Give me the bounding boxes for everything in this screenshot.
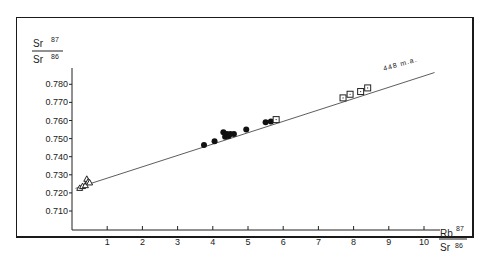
isochron-annotation: 448 m.a. [382, 56, 418, 72]
y-tick-label: 0.750 [45, 134, 68, 144]
x-tick-label: 1 [105, 237, 110, 247]
y-axis-label: Sr87Sr86 [32, 36, 63, 65]
x-tick-label: 3 [175, 237, 180, 247]
y-tick-label: 0.760 [45, 116, 68, 126]
isochron-chart: 0.7100.7200.7300.7400.7500.7600.7700.780… [0, 0, 492, 271]
x-tick-label: 4 [210, 237, 215, 247]
x-tick-label: 7 [316, 237, 321, 247]
svg-text:Sr: Sr [33, 38, 44, 49]
isochron-line [76, 73, 435, 189]
y-tick-label: 0.780 [45, 79, 68, 89]
data-point [231, 131, 237, 137]
y-tick-label: 0.730 [45, 170, 68, 180]
y-tick-label: 0.740 [45, 152, 68, 162]
svg-text:87: 87 [456, 225, 464, 232]
data-point [243, 127, 249, 133]
svg-text:Rb: Rb [440, 228, 453, 239]
y-tick-label: 0.770 [45, 97, 68, 107]
x-tick-label: 5 [245, 237, 250, 247]
y-tick-label: 0.720 [45, 188, 68, 198]
x-tick-label: 9 [386, 237, 391, 247]
x-tick-label: 10 [419, 237, 429, 247]
data-point [212, 138, 218, 144]
x-tick-label: 6 [281, 237, 286, 247]
x-tick-label: 8 [351, 237, 356, 247]
svg-text:Sr: Sr [440, 242, 451, 253]
x-tick-label: 2 [140, 237, 145, 247]
svg-text:Sr: Sr [33, 54, 44, 65]
series-circles [201, 118, 274, 148]
svg-text:86: 86 [51, 53, 59, 60]
series-squares [273, 85, 371, 123]
svg-text:86: 86 [455, 242, 463, 249]
series-triangles [77, 176, 93, 191]
y-tick-label: 0.710 [45, 206, 68, 216]
data-point [201, 142, 207, 148]
data-point [263, 119, 269, 125]
x-axis-label: Rb87Sr86 [439, 225, 467, 253]
svg-text:87: 87 [51, 36, 59, 43]
